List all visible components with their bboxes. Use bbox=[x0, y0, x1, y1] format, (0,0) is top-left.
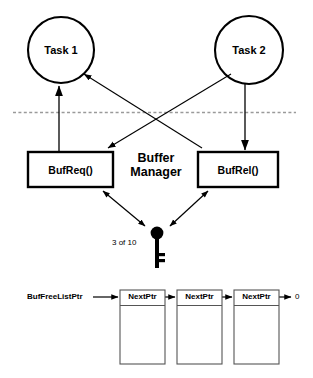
buffer-node-2-label: NextPtr bbox=[177, 292, 222, 301]
bufreq-label: BufReq() bbox=[28, 164, 113, 176]
arrow-bufrel-semaphore bbox=[170, 191, 208, 226]
task-2-label: Task 2 bbox=[188, 44, 310, 56]
arrow-bufrel-to-task1 bbox=[84, 74, 202, 148]
diagram-vector-layer bbox=[0, 0, 313, 378]
arrow-bufreq-semaphore bbox=[103, 191, 145, 226]
buffer-node-1 bbox=[120, 290, 165, 364]
buffer-node-3-label: NextPtr bbox=[234, 292, 279, 301]
buffer-manager-label-line2: Manager bbox=[121, 166, 191, 179]
semaphore-count-label: 3 of 10 bbox=[112, 238, 136, 247]
task-1-label: Task 1 bbox=[0, 44, 122, 56]
freelist-terminator-label: 0 bbox=[295, 292, 299, 301]
buffer-node-1-label: NextPtr bbox=[120, 292, 165, 301]
buffreelistptr-label: BufFreeListPtr bbox=[27, 292, 83, 301]
diagram-canvas: Task 1 Task 2 BufReq() BufRel() Buffer M… bbox=[0, 0, 313, 378]
arrow-task2-to-bufreq bbox=[108, 74, 231, 148]
bufrel-label: BufRel() bbox=[198, 164, 278, 176]
buffer-node-2 bbox=[177, 290, 222, 364]
buffer-node-3 bbox=[234, 290, 279, 364]
buffer-manager-label-line1: Buffer bbox=[121, 152, 191, 165]
key-icon bbox=[151, 227, 165, 268]
